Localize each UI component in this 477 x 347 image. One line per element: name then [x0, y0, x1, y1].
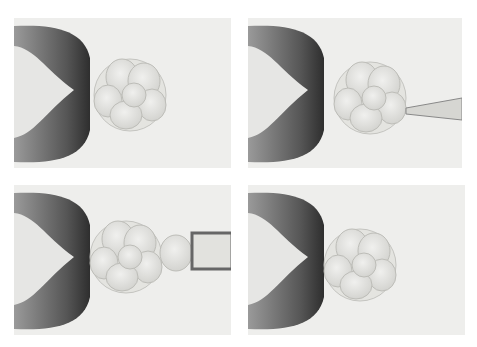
biopsy-pipette [192, 233, 231, 269]
holding-pipette [248, 193, 324, 330]
aspirated-blastomere [160, 235, 192, 271]
micrograph-1 [14, 18, 231, 168]
panel-1 [14, 18, 231, 168]
holding-pipette [14, 193, 90, 330]
panel-4 [248, 185, 465, 335]
embryo [334, 62, 406, 134]
micrograph-4 [248, 185, 465, 335]
embryo [94, 59, 166, 131]
embryo [324, 229, 396, 301]
panel-2 [248, 18, 462, 168]
biopsy-needle [406, 98, 462, 120]
holding-pipette [248, 26, 324, 163]
panel-3 [14, 185, 231, 335]
micrograph-2 [248, 18, 462, 168]
holding-pipette [14, 26, 90, 163]
embryo [90, 221, 162, 293]
micrograph-3 [14, 185, 231, 335]
